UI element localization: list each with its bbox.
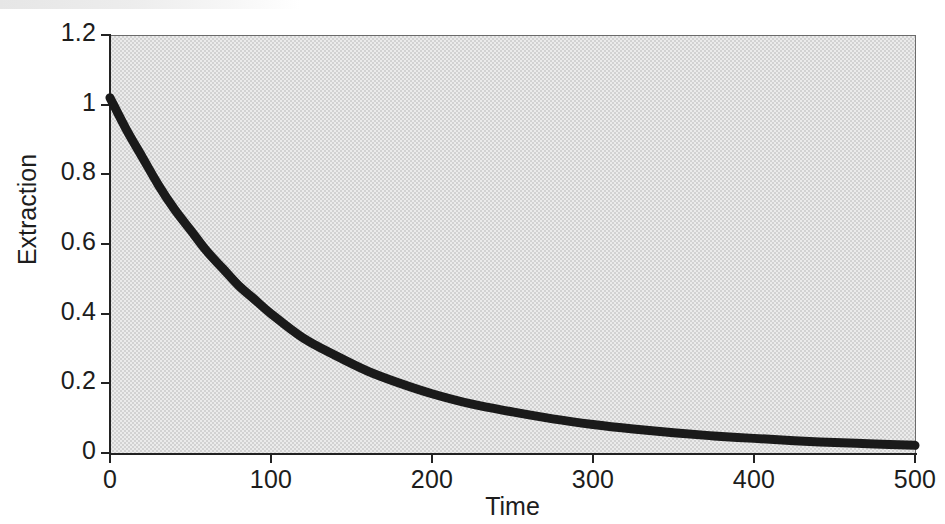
plot-area — [110, 35, 916, 454]
x-tick-label: 200 — [372, 465, 492, 494]
y-tick-mark — [101, 382, 110, 384]
x-tick-mark — [270, 454, 272, 463]
x-tick-label: 100 — [211, 465, 331, 494]
x-tick-mark — [753, 454, 755, 463]
x-axis-label: Time — [110, 492, 915, 521]
y-tick-mark — [101, 104, 110, 106]
x-axis-label-text: Time — [485, 492, 540, 520]
x-tick-label: 500 — [855, 465, 945, 494]
chart-figure: 00.20.40.60.811.2 0100200300400500 Extra… — [0, 0, 945, 524]
x-tick-label: 300 — [533, 465, 653, 494]
y-tick-label: 0 — [0, 436, 96, 465]
y-axis-label-text: Extraction — [14, 153, 43, 264]
x-tick-label: 400 — [694, 465, 814, 494]
x-tick-mark — [431, 454, 433, 463]
y-tick-mark — [101, 243, 110, 245]
y-tick-mark — [101, 34, 110, 36]
x-tick-mark — [592, 454, 594, 463]
x-axis-line — [109, 453, 917, 455]
x-tick-label: 0 — [50, 465, 170, 494]
y-axis-label: Extraction — [10, 0, 46, 418]
x-tick-mark — [109, 454, 111, 463]
x-tick-mark — [914, 454, 916, 463]
y-tick-mark — [101, 173, 110, 175]
y-tick-mark — [101, 313, 110, 315]
